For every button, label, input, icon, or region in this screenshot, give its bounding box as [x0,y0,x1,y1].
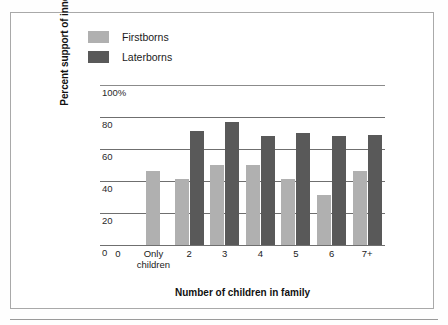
x-axis-line [100,245,385,246]
bar-laterborns-7+ [368,135,382,245]
x-tick-label-line1: 0 [115,248,120,259]
bar-firstborns-3 [210,165,224,245]
y-tick-80: 80 [102,119,113,130]
x-tick-label-line2: children [136,259,172,270]
bar-firstborns-7+ [353,171,367,245]
bar-laterborns-6 [332,136,346,245]
plot-wrapper: 100%806040200 0Onlychildren234567+ Numbe… [0,0,448,325]
x-axis-title: Number of children in family [100,287,385,298]
x-tick-label-line1: 5 [293,248,298,259]
x-tick-Only-children: Onlychildren [136,248,172,270]
gridline-80 [100,117,385,118]
x-tick-label-line1: 6 [329,248,334,259]
y-tick-60: 60 [102,151,113,162]
figure: Firstborns Laterborns Percent support of… [0,0,448,325]
bottom-rule [10,319,438,320]
x-tick-3: 3 [207,248,243,259]
y-tick-20: 20 [102,215,113,226]
bar-firstborns-6 [317,195,331,245]
x-tick-label-line1: 3 [222,248,227,259]
bar-laterborns-3 [225,122,239,245]
x-tick-0: 0 [100,248,136,259]
x-tick-labels: 0Onlychildren234567+ [100,248,385,276]
x-tick-label-line1: Only [144,248,164,259]
x-tick-label-line1: 2 [186,248,191,259]
x-tick-4: 4 [243,248,279,259]
bar-firstborns-4 [246,165,260,245]
x-tick-7+: 7+ [349,248,385,259]
bar-laterborns-2 [190,131,204,245]
bar-laterborns-4 [261,136,275,245]
x-tick-6: 6 [314,248,350,259]
x-tick-label-line1: 7+ [362,248,373,259]
gridline-100 [100,85,385,86]
bar-laterborns-5 [296,133,310,245]
bar-firstborns-Only-children [146,171,160,245]
y-tick-40: 40 [102,183,113,194]
x-tick-2: 2 [171,248,207,259]
bar-firstborns-2 [175,179,189,245]
bar-firstborns-5 [281,179,295,245]
plot-area: 100%806040200 [100,85,385,245]
x-tick-label-line1: 4 [258,248,263,259]
x-tick-5: 5 [278,248,314,259]
y-tick-100: 100% [102,87,126,98]
